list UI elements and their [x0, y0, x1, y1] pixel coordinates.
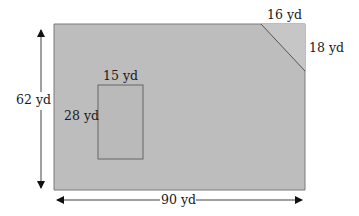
inner-height-label: 28 yd [64, 108, 99, 123]
outer-height-label: 62 yd [16, 92, 51, 107]
cutout-top-label: 16 yd [267, 7, 302, 22]
cutout-side-label: 18 yd [309, 40, 344, 55]
inner-width-label: 15 yd [103, 68, 138, 83]
outer-field-shape [54, 24, 305, 190]
area-diagram: 62 yd 90 yd 15 yd 28 yd 16 yd 18 yd [0, 0, 359, 216]
outer-width-label: 90 yd [161, 192, 196, 207]
inner-rectangle [98, 85, 143, 159]
